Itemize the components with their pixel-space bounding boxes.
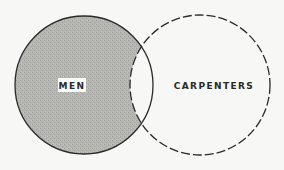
venn-diagram: MEN CARPENTERS [0, 0, 284, 170]
carpenters-label: CARPENTERS [174, 81, 254, 91]
men-label: MEN [59, 81, 86, 91]
